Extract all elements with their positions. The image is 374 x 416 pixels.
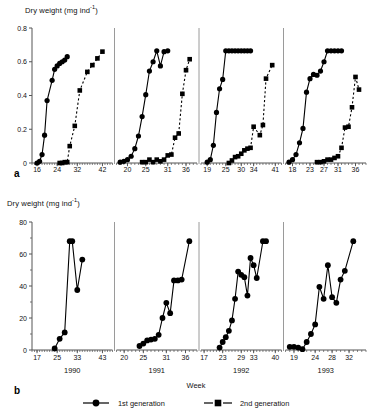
- panel-panel-b-1991: 202531361991: [117, 222, 200, 375]
- legend-label-1st-generation: 1st generation: [118, 399, 165, 408]
- data-point-circle: [220, 77, 225, 82]
- data-point-square: [173, 135, 178, 140]
- data-point-circle: [217, 345, 223, 351]
- data-point-square: [270, 63, 275, 68]
- x-tick-label: 28: [328, 354, 336, 361]
- data-point-circle: [39, 152, 44, 157]
- x-tick-label: 25: [142, 166, 150, 173]
- data-point-square: [258, 133, 263, 138]
- x-tick-label: 18: [289, 166, 297, 173]
- data-point-square: [72, 124, 77, 129]
- data-point-circle: [329, 294, 335, 300]
- data-point-circle: [214, 110, 219, 115]
- data-point-circle: [263, 238, 269, 244]
- panel-panel-a-1990: 16243242: [32, 28, 115, 173]
- data-point-circle: [325, 262, 331, 268]
- data-point-circle: [163, 300, 169, 306]
- data-point-circle: [333, 300, 339, 306]
- data-point-circle: [307, 76, 312, 81]
- x-tick-label: 29: [237, 354, 245, 361]
- data-point-circle: [50, 78, 55, 83]
- data-point-circle: [74, 287, 80, 293]
- x-tick-label: 20: [124, 166, 132, 173]
- x-tick-label: 33: [73, 354, 81, 361]
- panel-panel-a-1991: 20253136: [117, 28, 200, 173]
- data-point-circle: [318, 68, 323, 73]
- x-tick-label: 23: [306, 166, 314, 173]
- data-point-circle: [57, 336, 63, 342]
- y-tick-label: 0.4: [17, 92, 27, 99]
- chart-panel-a: 00.20.40.60.8162432422025313619253034411…: [17, 25, 366, 173]
- year-label: 1990: [64, 366, 80, 375]
- data-point-circle: [314, 73, 319, 78]
- x-tick-label: 20: [120, 354, 128, 361]
- data-point-circle: [136, 133, 141, 138]
- data-point-circle: [229, 318, 235, 324]
- data-point-circle: [143, 92, 148, 97]
- data-point-circle: [248, 48, 253, 53]
- x-tick-label: 19: [290, 354, 298, 361]
- x-tick-label: 19: [203, 166, 211, 173]
- data-point-circle: [52, 346, 58, 352]
- x-tick-label: 33: [250, 354, 258, 361]
- y-tick-label: 0.2: [17, 126, 27, 133]
- week-axis-title: Week: [187, 381, 206, 390]
- x-tick-label: 25: [53, 354, 61, 361]
- data-point-square: [357, 87, 362, 92]
- panel-panel-a-1993: 1823273136: [286, 48, 367, 173]
- data-point-circle: [226, 328, 232, 334]
- data-point-circle: [160, 315, 166, 321]
- x-tick-label: 32: [345, 354, 353, 361]
- x-tick-label: 30: [237, 166, 245, 173]
- legend-label-2nd-generation: 2nd generation: [240, 399, 289, 408]
- series-line-1st-generation: [37, 57, 67, 163]
- y-tick-label: 80: [19, 219, 27, 226]
- data-point-circle: [186, 238, 192, 244]
- panel-panel-a-1992: 1925303441: [201, 28, 284, 173]
- x-tick-label: 31: [164, 166, 172, 173]
- legend-marker-square: [215, 400, 222, 407]
- data-point-circle: [308, 331, 314, 337]
- year-label: 1993: [318, 366, 334, 375]
- data-point-square: [90, 63, 95, 68]
- data-point-circle: [62, 330, 68, 336]
- figure-canvas: 00.20.40.60.8162432422025313619253034411…: [0, 0, 374, 416]
- data-point-square: [169, 152, 174, 157]
- data-point-circle: [150, 59, 155, 64]
- data-point-circle: [241, 274, 247, 280]
- data-point-circle: [132, 146, 137, 151]
- data-point-square: [85, 70, 90, 75]
- data-point-circle: [37, 159, 42, 164]
- data-point-circle: [156, 332, 162, 338]
- data-point-circle: [254, 275, 260, 281]
- series-line-1st-generation: [140, 241, 190, 346]
- data-point-circle: [350, 238, 356, 244]
- data-point-circle: [223, 334, 229, 340]
- data-point-square: [176, 131, 181, 136]
- y-tick-label: 0.8: [17, 25, 27, 32]
- data-point-circle: [248, 255, 254, 261]
- data-point-square: [336, 154, 341, 159]
- data-point-circle: [217, 86, 222, 91]
- data-point-circle: [342, 268, 348, 274]
- x-tick-label: 41: [271, 166, 279, 173]
- x-tick-label: 36: [352, 166, 360, 173]
- data-point-square: [100, 49, 105, 54]
- data-point-square: [187, 57, 192, 62]
- data-point-circle: [69, 238, 75, 244]
- data-point-square: [184, 68, 189, 73]
- data-point-circle: [304, 90, 309, 95]
- panel-panel-b-1992: 17232933401992: [200, 222, 283, 375]
- y-tick-label: 40: [19, 283, 27, 290]
- y-tick-label: 0: [23, 347, 27, 354]
- data-point-circle: [300, 126, 305, 131]
- panel-panel-b-1993: 192428321993: [286, 238, 367, 375]
- y-tick-label: 20: [19, 315, 27, 322]
- data-point-circle: [290, 157, 295, 162]
- x-tick-label: 25: [222, 166, 230, 173]
- x-tick-label: 17: [200, 354, 208, 361]
- data-point-square: [180, 92, 185, 97]
- y-tick-label: 0: [23, 160, 27, 167]
- data-point-circle: [42, 133, 47, 138]
- year-label: 1991: [149, 366, 165, 375]
